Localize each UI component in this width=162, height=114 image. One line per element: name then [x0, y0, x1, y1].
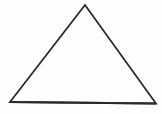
figure-canvas: Triangle outline drawing — [0, 0, 162, 114]
triangle-base-edge — [10, 102, 156, 104]
triangle-figure: Triangle outline drawing — [0, 0, 162, 114]
triangle-shape — [10, 5, 156, 104]
